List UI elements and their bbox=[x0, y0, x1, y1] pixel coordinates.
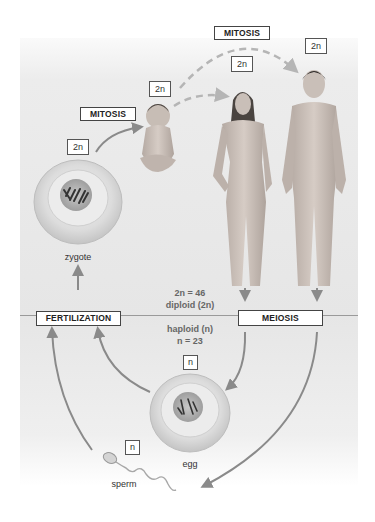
sperm-caption: sperm bbox=[106, 479, 142, 489]
life-cycle-diagram: MITOSIS MITOSIS FERTILIZATION MEIOSIS 2n… bbox=[0, 0, 375, 522]
ploidy-egg: n bbox=[183, 355, 198, 370]
zygote-cell bbox=[34, 160, 122, 244]
ploidy-female: 2n bbox=[231, 56, 253, 72]
meiosis-label: MEIOSIS bbox=[238, 310, 323, 326]
egg-caption: egg bbox=[175, 459, 205, 469]
zygote-caption: zygote bbox=[55, 252, 101, 262]
arrow-meiosis-to-egg bbox=[228, 332, 245, 388]
diploid-label: diploid (2n) bbox=[160, 299, 220, 311]
ploidy-sperm: n bbox=[125, 440, 140, 455]
ploidy-male: 2n bbox=[305, 38, 327, 54]
arrow-egg-to-fertilization bbox=[98, 330, 150, 392]
arrow-sperm-to-fertilization bbox=[52, 330, 92, 450]
mitosis-label-1: MITOSIS bbox=[80, 107, 136, 121]
egg-cell bbox=[150, 374, 230, 452]
diploid-number: 2n = 46 bbox=[160, 287, 220, 299]
fertilization-label: FERTILIZATION bbox=[36, 311, 121, 326]
haploid-count-text: haploid (n) n = 23 bbox=[160, 323, 220, 347]
haploid-label: haploid (n) bbox=[160, 323, 220, 335]
male-figure bbox=[282, 70, 346, 286]
female-figure bbox=[213, 92, 272, 286]
haploid-number: n = 23 bbox=[160, 335, 220, 347]
baby-figure bbox=[140, 104, 176, 172]
diploid-count-text: 2n = 46 diploid (2n) bbox=[160, 287, 220, 311]
arrow-zygote-to-baby bbox=[96, 127, 140, 152]
ploidy-zygote: 2n bbox=[67, 139, 89, 155]
mitosis-label-2: MITOSIS bbox=[214, 26, 270, 40]
arrow-baby-to-female bbox=[174, 95, 225, 106]
ploidy-baby: 2n bbox=[149, 81, 171, 97]
